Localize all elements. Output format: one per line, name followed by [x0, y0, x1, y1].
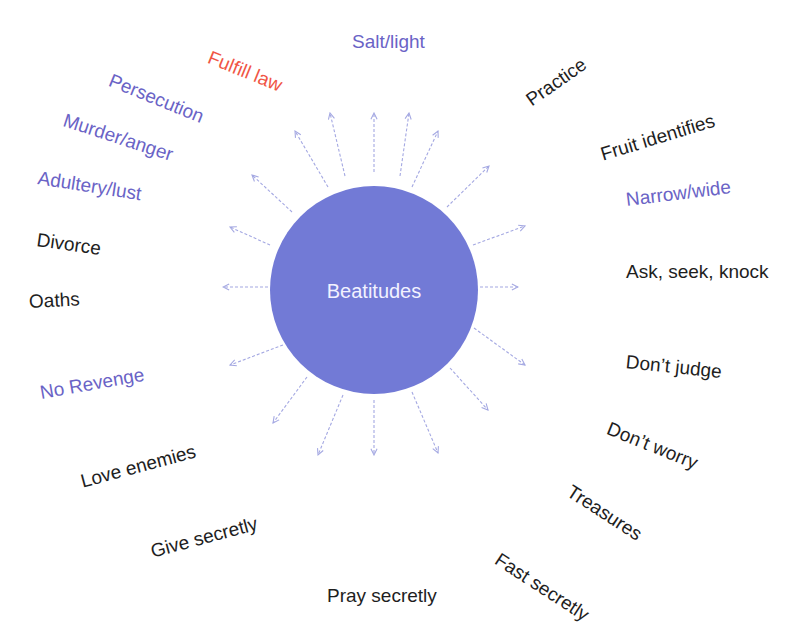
label-oaths: Oaths [29, 289, 81, 311]
label-pray-secretly: Pray secretly [327, 586, 437, 605]
arrow-lower-left [273, 377, 307, 423]
arrow-upper-left [252, 175, 292, 212]
arrow-lower-right [450, 368, 488, 410]
arrow-up-right-1 [400, 113, 409, 176]
center-label: Beatitudes [327, 280, 422, 303]
arrow-up-left-2 [295, 131, 328, 187]
arrow-left-high [230, 227, 270, 245]
center-node: Beatitudes [270, 186, 478, 394]
arrow-upper-right [447, 166, 489, 207]
arrow-right-low [474, 328, 525, 365]
arrow-up-left-1 [330, 113, 345, 176]
beatitudes-radial-diagram: Beatitudes Salt/light Fulfill law Persec… [0, 0, 802, 639]
arrow-right-high [473, 226, 525, 245]
label-ask-seek-knock: Ask, seek, knock [626, 262, 769, 281]
arrow-up-right-2 [412, 131, 438, 187]
arrow-down-right [412, 392, 438, 453]
label-salt-light: Salt/light [352, 32, 425, 51]
arrow-left-low [230, 345, 283, 365]
arrow-down-left [318, 395, 343, 455]
